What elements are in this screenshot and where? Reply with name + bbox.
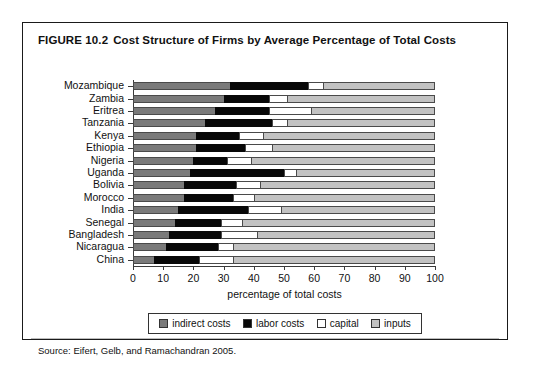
figure-number: FIGURE 10.2 xyxy=(38,34,108,46)
bar-segment-labor xyxy=(193,157,226,165)
bar-row xyxy=(133,194,435,202)
bar-row xyxy=(133,107,435,115)
bar-row xyxy=(133,243,435,251)
bar-segment-inputs xyxy=(287,95,435,103)
bar-segment-capital xyxy=(269,95,287,103)
bar-segment-capital xyxy=(227,157,251,165)
bar-segment-labor xyxy=(175,219,220,227)
bar-segment-capital xyxy=(308,82,323,90)
x-axis-tick xyxy=(224,266,225,270)
x-axis-tick-label: 60 xyxy=(308,272,320,284)
bar-segment-indirect xyxy=(133,194,184,202)
bar-segment-indirect xyxy=(133,169,190,177)
bar-segment-labor xyxy=(215,107,269,115)
bar-segment-labor xyxy=(166,243,217,251)
bar-segment-indirect xyxy=(133,82,230,90)
bar-segment-indirect xyxy=(133,107,215,115)
bar-segment-capital xyxy=(218,243,233,251)
bar-segment-inputs xyxy=(287,119,435,127)
source-note: Source: Eifert, Gelb, and Ramachandran 2… xyxy=(38,345,236,356)
legend-swatch-inputs xyxy=(371,319,380,328)
bar-segment-capital xyxy=(239,132,263,140)
x-axis-tick-label: 0 xyxy=(130,272,136,284)
bar-segment-inputs xyxy=(242,219,435,227)
bar-segment-inputs xyxy=(296,169,435,177)
bar-segment-inputs xyxy=(257,231,435,239)
bar-segment-inputs xyxy=(263,132,435,140)
bar-segment-inputs xyxy=(311,107,435,115)
figure-container: FIGURE 10.2Cost Structure of Firms by Av… xyxy=(22,22,508,340)
x-axis-tick xyxy=(435,266,436,270)
chart-legend: indirect costslabor costscapitalinputs xyxy=(148,313,422,334)
bar-segment-inputs xyxy=(254,194,435,202)
bar-segment-labor xyxy=(224,95,269,103)
y-axis-label: Bangladesh xyxy=(69,229,124,239)
x-axis-tick xyxy=(375,266,376,270)
x-axis-tick xyxy=(344,266,345,270)
bar-segment-labor xyxy=(184,181,235,189)
x-axis-tick-label: 70 xyxy=(339,272,351,284)
bar-segment-capital xyxy=(221,231,257,239)
bar-row xyxy=(133,219,435,227)
bar-row xyxy=(133,82,435,90)
y-axis-label: Ethiopia xyxy=(86,142,124,152)
legend-swatch-capital xyxy=(317,319,326,328)
bar-segment-capital xyxy=(248,206,281,214)
bar-segment-capital xyxy=(245,144,272,152)
bar-segment-indirect xyxy=(133,95,224,103)
bar-segment-capital xyxy=(236,181,260,189)
legend-label: indirect costs xyxy=(172,318,230,329)
x-axis-tick-label: 40 xyxy=(248,272,260,284)
bar-segment-indirect xyxy=(133,144,196,152)
bar-row xyxy=(133,256,435,264)
bar-segment-indirect xyxy=(133,231,169,239)
y-axis-label: Nigeria xyxy=(91,155,124,165)
x-axis-tick xyxy=(133,266,134,270)
bar-segment-indirect xyxy=(133,119,205,127)
bar-segment-capital xyxy=(272,119,287,127)
bar-segment-inputs xyxy=(281,206,435,214)
x-axis-label: percentage of total costs xyxy=(133,288,436,300)
y-axis-label: Uganda xyxy=(87,167,124,177)
y-axis-label: Tanzania xyxy=(82,117,124,127)
legend-item-labor: labor costs xyxy=(243,318,304,329)
y-axis-label: China xyxy=(97,254,124,264)
x-axis-tick xyxy=(193,266,194,270)
legend-label: labor costs xyxy=(256,318,304,329)
bar-segment-inputs xyxy=(233,256,435,264)
bar-segment-inputs xyxy=(260,181,435,189)
y-axis-label: India xyxy=(101,204,124,214)
bar-row xyxy=(133,157,435,165)
bar-segment-labor xyxy=(190,169,284,177)
bar-segment-indirect xyxy=(133,219,175,227)
y-axis-label: Morocco xyxy=(84,192,124,202)
plot-area xyxy=(133,80,435,266)
figure-title-text: Cost Structure of Firms by Average Perce… xyxy=(113,34,456,46)
legend-item-inputs: inputs xyxy=(371,318,411,329)
x-axis-tick-label: 100 xyxy=(426,272,444,284)
source-divider xyxy=(31,338,499,339)
x-axis-tick xyxy=(163,266,164,270)
bar-segment-inputs xyxy=(251,157,435,165)
y-axis-label: Eritrea xyxy=(93,105,124,115)
bar-segment-labor xyxy=(205,119,271,127)
x-axis-tick xyxy=(254,266,255,270)
x-axis-tick xyxy=(314,266,315,270)
x-axis-tick-label: 90 xyxy=(399,272,411,284)
x-axis-tick-label: 30 xyxy=(218,272,230,284)
bar-segment-labor xyxy=(154,256,199,264)
legend-item-indirect: indirect costs xyxy=(159,318,230,329)
figure-title: FIGURE 10.2Cost Structure of Firms by Av… xyxy=(38,34,456,46)
y-axis-label: Mozambique xyxy=(64,80,124,90)
bar-segment-indirect xyxy=(133,256,154,264)
legend-label: inputs xyxy=(384,318,411,329)
y-axis-label: Kenya xyxy=(94,130,124,140)
legend-swatch-indirect xyxy=(159,319,168,328)
y-axis-label: Senegal xyxy=(85,217,124,227)
legend-label: capital xyxy=(330,318,359,329)
y-axis-label: Zambia xyxy=(89,93,124,103)
bar-row xyxy=(133,119,435,127)
legend-swatch-labor xyxy=(243,319,252,328)
x-axis-tick-label: 50 xyxy=(278,272,290,284)
bar-segment-labor xyxy=(178,206,247,214)
